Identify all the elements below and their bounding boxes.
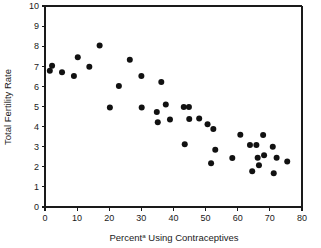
data-point: [247, 142, 253, 148]
x-axis-title: Percenta Using Contraceptives: [109, 232, 238, 243]
data-point: [196, 116, 202, 122]
x-tick-label: 0: [42, 213, 47, 223]
data-point: [107, 105, 113, 111]
y-tick-label: 9: [34, 21, 39, 31]
chart-canvas: 012345678910 01020304050607080 Percenta …: [0, 0, 321, 248]
data-point: [249, 168, 255, 174]
chart-background: [0, 0, 321, 248]
data-point: [284, 159, 290, 165]
data-point: [271, 170, 277, 176]
data-point: [186, 116, 192, 122]
x-tick-label: 80: [297, 213, 307, 223]
x-tick-label: 10: [72, 213, 82, 223]
x-tick-label: 40: [168, 213, 178, 223]
data-point: [256, 162, 262, 168]
data-point: [274, 155, 280, 161]
data-point: [255, 155, 261, 161]
data-point: [186, 104, 192, 110]
data-point: [229, 155, 235, 161]
data-point: [212, 147, 218, 153]
y-axis-title: Total Fertility Rate: [2, 69, 13, 145]
data-point: [155, 119, 161, 125]
x-tick-label: 50: [201, 213, 211, 223]
data-point: [116, 83, 122, 89]
data-point: [253, 142, 259, 148]
data-point: [210, 126, 216, 132]
x-tick-label: 30: [136, 213, 146, 223]
y-tick-label: 1: [34, 182, 39, 192]
data-point: [205, 121, 211, 127]
x-tick-label: 70: [265, 213, 275, 223]
data-point: [260, 132, 266, 138]
data-point: [261, 152, 267, 158]
y-tick-label: 0: [34, 202, 39, 212]
y-tick-label: 4: [34, 122, 39, 132]
data-point: [154, 109, 160, 115]
y-tick-label: 6: [34, 82, 39, 92]
data-point: [167, 117, 173, 123]
data-point: [86, 64, 92, 70]
y-tick-label: 7: [34, 62, 39, 72]
data-point: [270, 144, 276, 150]
y-tick-label: 3: [34, 142, 39, 152]
data-point: [237, 132, 243, 138]
y-tick-label: 5: [34, 102, 39, 112]
x-tick-label: 60: [233, 213, 243, 223]
data-point: [138, 73, 144, 79]
data-point: [75, 54, 81, 60]
data-point: [163, 101, 169, 107]
data-point: [158, 79, 164, 85]
x-tick-label: 20: [104, 213, 114, 223]
y-tick-label: 8: [34, 41, 39, 51]
y-tick-label: 2: [34, 162, 39, 172]
data-point: [182, 141, 188, 147]
data-point: [59, 69, 65, 75]
data-point: [97, 43, 103, 49]
data-point: [127, 57, 133, 63]
data-point: [49, 63, 55, 69]
data-point: [181, 104, 187, 110]
data-point: [208, 160, 214, 166]
scatter-plot-figure: 012345678910 01020304050607080 Percenta …: [0, 0, 321, 248]
data-point: [71, 73, 77, 79]
y-tick-label: 10: [29, 1, 39, 11]
data-point: [139, 105, 145, 111]
